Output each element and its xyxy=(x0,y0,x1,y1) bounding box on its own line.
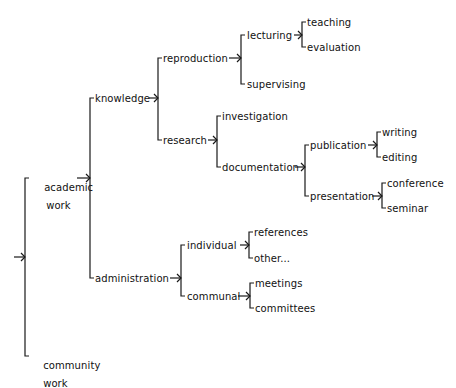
knowledge-bracket xyxy=(158,58,162,140)
node-other: other... xyxy=(254,254,290,263)
node-documentation: documentation xyxy=(222,163,299,172)
node-knowledge: knowledge xyxy=(95,94,150,103)
node-evaluation: evaluation xyxy=(307,43,361,52)
lecturing-bracket xyxy=(302,22,306,47)
documentation-bracket xyxy=(305,145,309,196)
node-research: research xyxy=(163,136,207,145)
node-label-line1: community xyxy=(43,360,100,371)
node-teaching: teaching xyxy=(307,18,351,27)
node-seminar: seminar xyxy=(387,204,428,213)
node-supervising: supervising xyxy=(247,80,306,89)
lecturing-arrow-icon xyxy=(294,31,302,39)
node-label-line1: academic xyxy=(44,182,93,193)
reproduction-arrow-icon xyxy=(229,54,241,62)
node-investigation: investigation xyxy=(222,112,288,121)
node-administration: administration xyxy=(95,274,169,283)
node-meetings: meetings xyxy=(255,279,302,288)
research-arrow-icon xyxy=(208,136,217,144)
node-individual: individual xyxy=(187,241,237,250)
node-lecturing: lecturing xyxy=(247,31,292,40)
node-presentation: presentation xyxy=(310,192,375,201)
individual-arrow-icon xyxy=(240,241,249,249)
research-bracket xyxy=(217,116,221,167)
node-editing: editing xyxy=(382,153,417,162)
communal-bracket xyxy=(250,283,254,308)
node-reproduction: reproduction xyxy=(163,54,228,63)
node-references: references xyxy=(254,228,308,237)
node-writing: writing xyxy=(382,128,417,137)
root-bracket xyxy=(25,178,29,356)
node-communal: communal xyxy=(187,292,240,301)
node-label-line2: work xyxy=(43,378,68,388)
publication-arrow-icon xyxy=(368,141,377,149)
node-label-line2: work xyxy=(44,200,71,211)
publication-bracket xyxy=(377,132,381,157)
node-conference: conference xyxy=(387,179,444,188)
reproduction-bracket xyxy=(241,35,245,84)
node-academic-work: academic work xyxy=(31,174,93,219)
node-publication: publication xyxy=(310,141,366,150)
administration-arrow-icon xyxy=(170,274,181,282)
node-committees: committees xyxy=(255,304,315,313)
tree-diagram: academic work community work knowledge a… xyxy=(0,0,456,388)
individual-bracket xyxy=(249,232,253,258)
node-community-work: community work xyxy=(30,352,100,388)
knowledge-arrow-icon xyxy=(149,94,158,102)
root-arrow-icon xyxy=(14,253,25,261)
presentation-bracket xyxy=(382,183,386,208)
administration-bracket xyxy=(181,245,185,296)
